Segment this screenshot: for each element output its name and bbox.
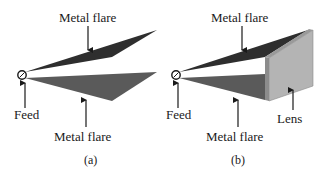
feed-icon: [18, 71, 26, 79]
bottom-metal-flare-b: [179, 74, 265, 100]
bottom-metal-flare-a: [25, 72, 157, 101]
feed-icon: [172, 71, 180, 79]
diagram-canvas: Metal flare Feed Metal flare (a) Metal f…: [0, 0, 328, 174]
caption-b: (b): [231, 153, 245, 167]
label-bottom-flare-a: Metal flare: [54, 129, 112, 144]
figure-a: Metal flare Feed Metal flare (a): [14, 10, 157, 167]
label-bottom-flare-b: Metal flare: [206, 129, 264, 144]
label-lens: Lens: [277, 111, 302, 126]
label-top-flare-b: Metal flare: [211, 10, 269, 25]
figure-b: Metal flare Feed Metal flare Lens (b): [166, 10, 313, 167]
label-feed-b: Feed: [166, 107, 192, 122]
label-feed-a: Feed: [14, 107, 40, 122]
caption-a: (a): [84, 153, 97, 167]
top-metal-flare-a: [25, 30, 157, 72]
label-top-flare-a: Metal flare: [59, 10, 117, 25]
